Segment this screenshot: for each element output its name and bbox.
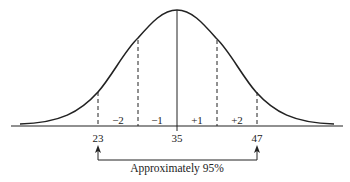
sd-label-plus-1: +1 (191, 114, 203, 126)
tick-label-23: 23 (93, 132, 105, 144)
sd-label-plus-2: +2 (231, 114, 243, 126)
sd-label-minus-2: −2 (112, 114, 124, 126)
range-caption: Approximately 95% (130, 162, 224, 175)
range-bracket (98, 148, 257, 160)
sd-label-minus-1: −1 (151, 114, 163, 126)
normal-curve-diagram: −2 −1 +1 +2 23 35 47 Approximately 95% (0, 0, 350, 182)
tick-label-35: 35 (172, 132, 184, 144)
tick-label-47: 47 (252, 132, 264, 144)
